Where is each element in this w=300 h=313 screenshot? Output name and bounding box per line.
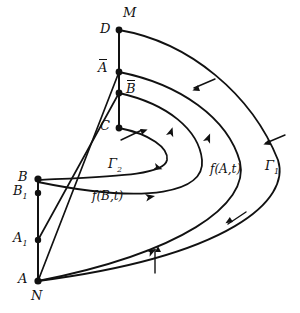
diagram-canvas: M D A B C B B1 A1 A N Γ1 Γ2 f(A,t) f(B,t…: [0, 0, 300, 313]
label-gamma-1: Γ1: [265, 159, 279, 176]
label-point-b: B: [18, 170, 28, 183]
label-f-b-t: f(B,t): [92, 190, 123, 202]
point-a-n: [34, 277, 41, 284]
label-point-a1: A1: [13, 231, 27, 248]
label-a1-text: A: [13, 230, 22, 245]
label-gamma2-subscript: 2: [117, 165, 122, 174]
label-abar-text: A: [98, 60, 107, 75]
label-a1-subscript: 1: [22, 239, 27, 248]
point-b: [34, 175, 41, 182]
arrowhead-fbt-right: [166, 126, 176, 137]
point-abar: [116, 69, 123, 76]
label-point-m: M: [123, 6, 136, 19]
arrowhead-gamma2: [153, 163, 164, 173]
label-b1-text: B: [13, 183, 23, 198]
label-b1-subscript: 1: [23, 192, 28, 201]
arrowhead-fat-right: [203, 132, 214, 144]
diagram-vector-layer: [0, 0, 300, 313]
gamma-2-inner-trajectory: [38, 128, 167, 180]
label-gamma1-text: Γ: [265, 158, 274, 173]
label-f-a-t: f(A,t): [210, 163, 241, 175]
point-bbar: [116, 90, 123, 97]
label-bbar-text: B: [126, 81, 136, 96]
gamma-1-outer-trajectory: [38, 30, 280, 281]
label-gamma2-text: Γ: [108, 156, 117, 171]
label-gamma1-subscript: 1: [274, 167, 279, 176]
label-gamma-2: Γ2: [108, 157, 122, 174]
point-m-d: [116, 27, 123, 34]
label-point-b1: B1: [13, 184, 28, 201]
label-point-c: C: [100, 119, 110, 132]
label-point-bbar: B: [126, 82, 136, 95]
point-b1: [35, 190, 41, 196]
label-point-d: D: [100, 22, 110, 35]
label-point-a: A: [18, 272, 27, 285]
point-a1: [35, 237, 41, 243]
f-a-t-trajectory: [38, 72, 241, 281]
label-point-n: N: [31, 289, 42, 302]
point-c: [116, 125, 123, 132]
chord-bbar-to-a1: [38, 93, 119, 240]
label-point-abar: A: [98, 61, 107, 74]
